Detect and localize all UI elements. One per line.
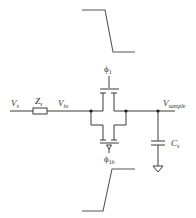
phi1b-label: ϕ1b [104,154,115,165]
zs-label: Zs [35,96,43,107]
vin-label: Vin [58,98,68,109]
pmos-gate-bubble-icon [107,145,112,149]
pmos-left-lead [91,111,103,140]
vs-label: Vs [11,98,20,109]
cs-label: Cs [171,138,180,149]
phi1-waveform [82,10,135,52]
vsample-label: Vsample [163,98,186,109]
phi1b-waveform [82,169,135,211]
circuit-diagram: ϕ1 ϕ1b Vs Zs Vin Vsample Cs [0,0,196,218]
phi1-label: ϕ1 [104,64,112,75]
source-impedance-resistor [33,108,47,114]
ground-icon [153,166,163,172]
pmos-right-lead [114,111,126,140]
